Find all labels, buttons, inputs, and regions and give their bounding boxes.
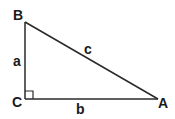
vertex-label-b: B — [13, 7, 23, 23]
right-angle-marker — [25, 91, 33, 99]
side-label-c: c — [84, 41, 92, 57]
side-c-line — [25, 22, 158, 99]
vertex-label-a: A — [158, 95, 168, 111]
side-label-a: a — [13, 53, 21, 69]
vertex-label-c: C — [12, 94, 22, 110]
side-label-b: b — [76, 101, 85, 117]
right-triangle-diagram: B C A a b c — [0, 0, 175, 119]
